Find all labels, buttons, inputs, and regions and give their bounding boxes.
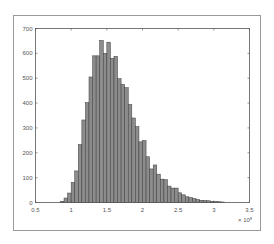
histogram-bar [150, 169, 154, 203]
histogram-bar [153, 165, 157, 203]
histogram-bar [135, 127, 139, 203]
histogram-bar [64, 198, 68, 202]
histogram-bar [114, 56, 118, 202]
histogram-bar [128, 105, 132, 203]
histogram-bar [178, 193, 182, 203]
histogram-bar [75, 171, 79, 203]
histogram-bar [96, 56, 100, 203]
histogram-bar [143, 141, 147, 203]
histogram-bar [185, 197, 189, 203]
histogram-bar [189, 198, 193, 203]
histogram-bar [167, 186, 171, 202]
histogram-bar [110, 58, 114, 202]
histogram-bar [196, 200, 200, 203]
histogram-bar [192, 199, 196, 203]
histogram-bar [121, 84, 125, 202]
x-tick-label: 0.5 [31, 207, 40, 213]
y-tick-label: 400 [22, 100, 33, 106]
histogram-bar [82, 120, 86, 203]
histogram-bar [164, 180, 168, 203]
histogram-figure: 0100200300400500600700 0.511.522.533.5 ×… [0, 0, 274, 244]
y-tick-label: 600 [22, 50, 33, 56]
histogram-bar [125, 88, 129, 203]
histogram-bar [107, 42, 111, 202]
histogram-bar [100, 40, 104, 202]
histogram-chart: 0100200300400500600700 0.511.522.533.5 ×… [0, 0, 274, 244]
histogram-bar [146, 157, 150, 203]
histogram-bar [182, 195, 186, 203]
y-tick-label: 300 [22, 125, 33, 131]
y-tick-label: 100 [22, 175, 33, 181]
x-tick-label: 1.5 [103, 207, 112, 213]
x-tick-label: 2.5 [174, 207, 183, 213]
histogram-bar [68, 193, 72, 202]
histogram-bar [93, 56, 97, 203]
histogram-bar [157, 174, 161, 202]
histogram-bar [89, 77, 93, 203]
y-tick-label: 500 [22, 75, 33, 81]
y-tick-label: 700 [22, 26, 33, 32]
histogram-bar [160, 179, 164, 202]
y-tick-label: 200 [22, 150, 33, 156]
histogram-bar [103, 53, 107, 202]
histogram-bar [171, 188, 175, 202]
histogram-bar [139, 142, 143, 203]
histogram-bar [118, 79, 122, 203]
histogram-bar [85, 103, 89, 203]
histogram-bar [132, 118, 136, 203]
histogram-bar [175, 188, 179, 202]
x-tick-label: 3.5 [245, 207, 254, 213]
histogram-bar [78, 145, 82, 203]
histogram-bar [71, 182, 75, 202]
